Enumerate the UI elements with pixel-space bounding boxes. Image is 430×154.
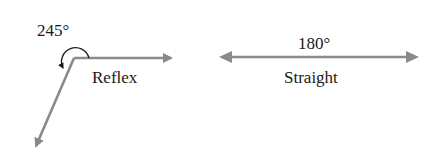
reflex-measure-label: 245° [37, 22, 69, 39]
straight-name-label: Straight [284, 69, 338, 86]
reflex-name-label: Reflex [92, 69, 137, 86]
reflex-lower-ray [36, 58, 74, 146]
straight-left-arrowhead [219, 51, 232, 63]
reflex-angle [36, 48, 171, 146]
straight-measure-label: 180° [298, 35, 330, 52]
straight-right-arrowhead [406, 51, 419, 63]
